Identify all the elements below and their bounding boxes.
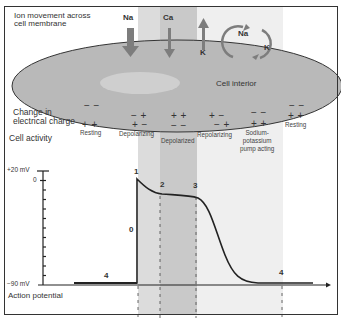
ca-label: Ca — [163, 14, 173, 22]
ion-movement-title: Ion movement across cell membrane — [14, 12, 90, 29]
phase-3-label: 3 — [193, 182, 197, 190]
charge-depolarizing-inside: + − — [132, 120, 148, 131]
activity-resting-2: Resting — [285, 122, 306, 129]
activity-depolarized: Depolarized — [161, 138, 195, 145]
activity-repolarizing: Repolarizing — [197, 132, 232, 139]
pump-k-label: K — [264, 44, 270, 52]
nucleus — [100, 72, 180, 94]
y-tick-zero: 0 — [33, 177, 37, 184]
activity-resting-1: Resting — [80, 130, 101, 137]
pump-na-label: Na — [238, 30, 248, 38]
charge-pump-inside: + + — [251, 119, 267, 130]
pump-line-1: Sodium- — [240, 129, 274, 137]
action-potential-label: Action potential — [8, 292, 63, 300]
charge-depolarized-inside: − − — [171, 121, 187, 132]
pump-line-2: potassium — [240, 137, 274, 145]
activity-depolarizing: Depolarizing — [119, 131, 154, 138]
diagram-canvas — [0, 0, 341, 319]
phase-4-label-right: 4 — [279, 269, 283, 277]
change-in-charge-label: Change in electrical charge — [13, 108, 75, 126]
action-potential-diagram: Ion movement across cell membrane Na Ca … — [0, 0, 341, 319]
phase-2-label: 2 — [160, 181, 164, 189]
na-label: Na — [123, 14, 133, 22]
y-tick-minus90: −90 mV — [7, 281, 30, 288]
y-tick-plus20: +20 mV — [7, 167, 30, 174]
phase-4-label-left: 4 — [104, 272, 108, 280]
phase-1-label: 1 — [134, 168, 138, 176]
pump-line-3: pump acting — [240, 145, 274, 153]
cell-interior-label: Cell interior — [216, 80, 256, 88]
phase-0-label: 0 — [129, 226, 133, 234]
charge-pump-outside: − − — [251, 108, 267, 119]
cell-activity-label: Cell activity — [9, 134, 52, 143]
change-in-charge-line2: electrical charge — [13, 117, 75, 126]
charge-resting-outside: − − — [84, 101, 100, 112]
y-axis — [37, 171, 49, 285]
charge-resting2-inside: + + — [288, 111, 304, 122]
charge-repolarizing-inside: − + — [214, 120, 230, 131]
k-label: K — [200, 49, 206, 57]
ion-movement-title-line2: cell membrane — [14, 20, 90, 28]
activity-sodium-potassium-pump: Sodium- potassium pump acting — [240, 129, 274, 153]
